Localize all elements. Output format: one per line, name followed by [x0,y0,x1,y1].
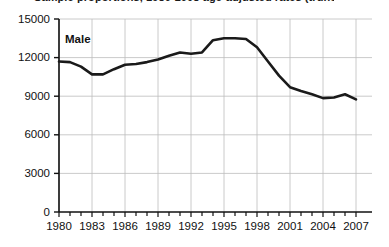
x-axis-tick-label: 1995 [211,220,237,232]
y-axis-tick-label: 9000 [24,90,50,102]
x-axis-tick-label: 1980 [46,220,72,232]
y-axis-tick-label: 6000 [24,128,50,140]
data-series-group [59,38,356,99]
x-axis-tick-label: 1983 [79,220,105,232]
line-chart-plot: 03000600090001200015000 1980198319861989… [0,0,389,247]
x-axis-ticks-group: 1980198319861989199219951998200120042007 [46,212,369,232]
y-axis-tick-label: 0 [44,206,50,218]
x-axis-tick-label: 2001 [277,220,303,232]
y-axis-ticks-group: 03000600090001200015000 [18,13,59,218]
x-axis-tick-label: 1998 [244,220,270,232]
x-axis-tick-label: 2004 [310,220,336,232]
x-axis-tick-label: 1992 [178,220,204,232]
x-axis-tick-label: 1989 [145,220,171,232]
x-axis-tick-label: 1986 [112,220,138,232]
y-axis-tick-label: 15000 [18,13,50,25]
x-axis-tick-label: 2007 [343,220,369,232]
data-line-male [59,38,356,99]
chart-container: Sample proportions, 1980-2008 age-adjust… [0,0,389,247]
series-annotations-group: Male [65,33,91,45]
axis-lines-group [59,19,372,212]
y-axis-tick-label: 12000 [18,51,50,63]
y-axis-tick-label: 3000 [24,167,50,179]
series-label-male: Male [65,33,91,45]
gridlines-group [59,19,372,212]
